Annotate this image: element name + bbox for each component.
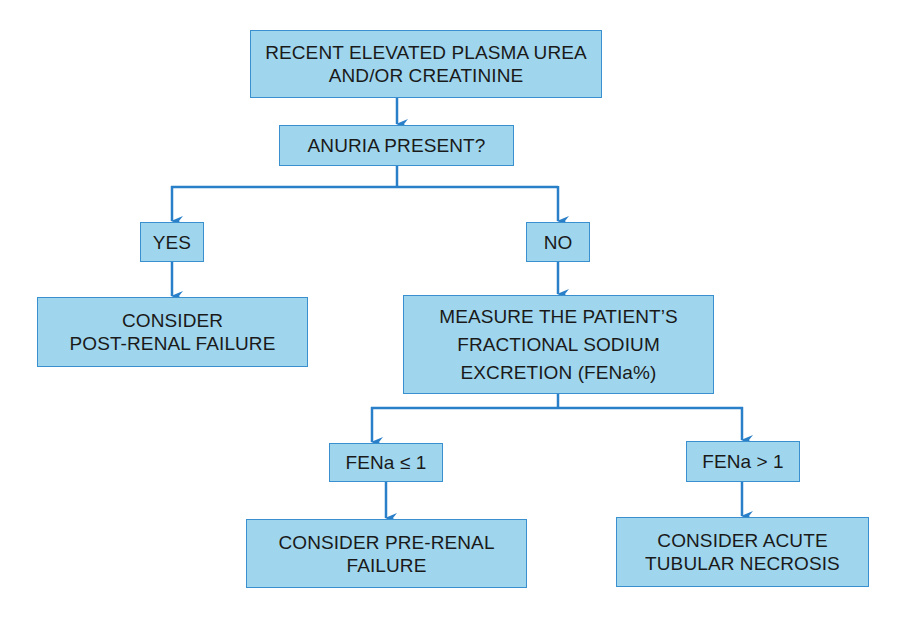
node-start-line-2: AND/OR CREATININE <box>329 64 524 87</box>
node-atn-line-1: CONSIDER ACUTE <box>657 529 827 552</box>
node-post-renal-line-1: CONSIDER <box>122 309 223 332</box>
node-acute-tubular-necrosis: CONSIDER ACUTE TUBULAR NECROSIS <box>616 517 869 587</box>
node-measure-line-1: MEASURE THE PATIENT’S <box>439 303 678 331</box>
node-pre-renal-line-1: CONSIDER PRE-RENAL <box>278 531 494 554</box>
node-atn-line-2: TUBULAR NECROSIS <box>645 552 840 575</box>
node-anuria: ANURIA PRESENT? <box>279 125 514 166</box>
node-start: RECENT ELEVATED PLASMA UREA AND/OR CREAT… <box>250 30 602 98</box>
node-no-label: NO <box>544 231 573 254</box>
node-fena-low-label: FENa ≤ 1 <box>346 451 427 474</box>
node-measure-line-3: EXCRETION (FENa%) <box>461 359 657 387</box>
node-pre-renal-line-2: FAILURE <box>347 554 427 577</box>
node-pre-renal: CONSIDER PRE-RENAL FAILURE <box>246 519 527 588</box>
node-fena-low: FENa ≤ 1 <box>329 443 443 482</box>
node-yes-label: YES <box>153 231 191 254</box>
node-post-renal: CONSIDER POST-RENAL FAILURE <box>37 297 308 367</box>
node-fena-high-label: FENa > 1 <box>702 450 784 473</box>
node-no: NO <box>526 222 590 262</box>
node-anuria-label: ANURIA PRESENT? <box>308 134 486 157</box>
node-measure-line-2: FRACTIONAL SODIUM <box>457 331 660 359</box>
node-fena-high: FENa > 1 <box>686 441 800 482</box>
node-yes: YES <box>140 222 204 262</box>
node-measure-fena: MEASURE THE PATIENT’S FRACTIONAL SODIUM … <box>403 295 714 394</box>
node-post-renal-line-2: POST-RENAL FAILURE <box>70 332 276 355</box>
node-start-line-1: RECENT ELEVATED PLASMA UREA <box>265 41 587 64</box>
